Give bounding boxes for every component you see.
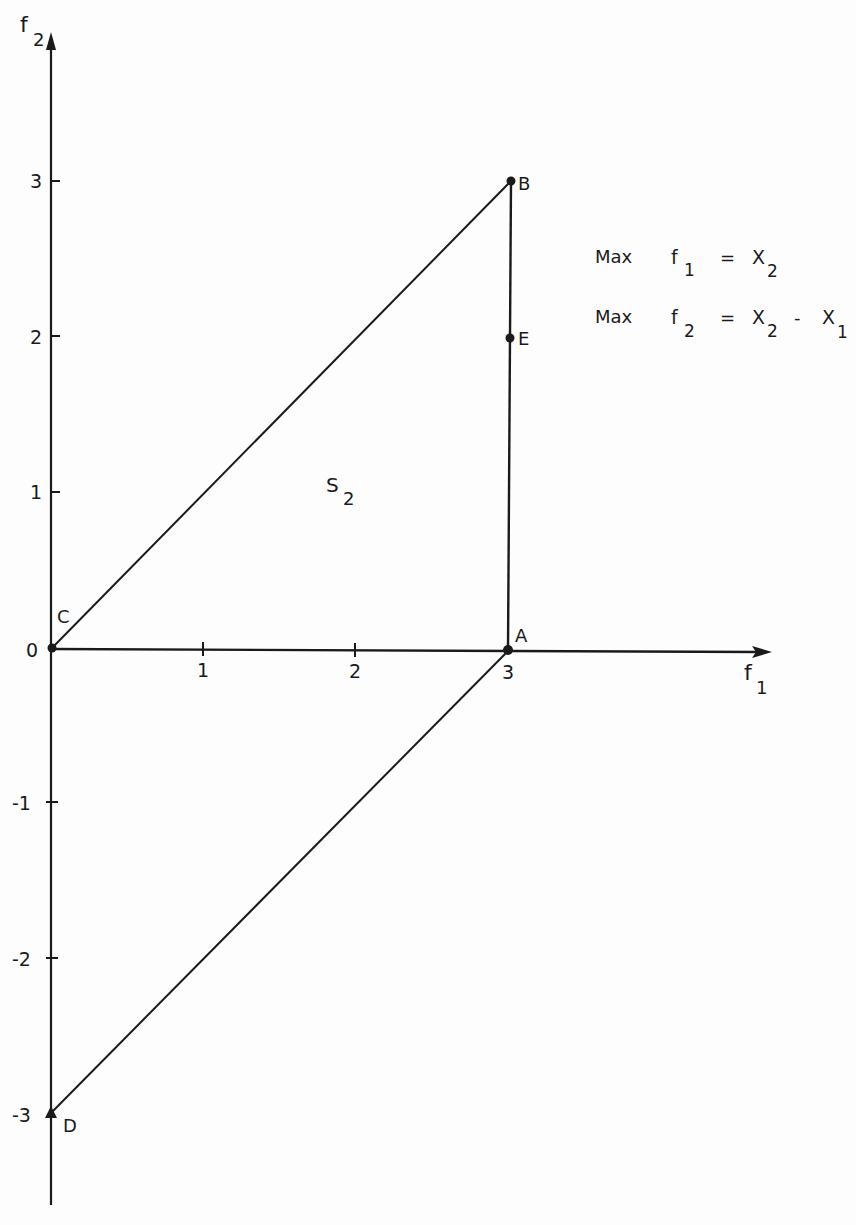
objective-2-lhs: f (671, 306, 679, 328)
segment-b-a (508, 181, 511, 650)
objective-1-keyword: Max (595, 246, 633, 267)
y-axis-arrow-icon (46, 32, 56, 50)
objective-1-equals: = (720, 247, 735, 268)
objective-2-rhs2: X (822, 306, 835, 328)
point-a-marker (503, 645, 513, 655)
x-tick-label-3: 3 (502, 661, 514, 683)
y-axis-label: f (20, 12, 29, 37)
point-d-label: D (63, 1115, 77, 1136)
objective-2-keyword: Max (595, 306, 633, 327)
segment-a-d (52, 651, 508, 1112)
y-axis-label-sub: 2 (33, 29, 44, 50)
point-b-label: B (518, 173, 530, 194)
point-c-label: C (57, 606, 70, 627)
y-tick-label-neg3: -3 (12, 1104, 31, 1126)
objective-2-rhs2-sub: 1 (837, 322, 848, 342)
objective-2-equals: = (720, 307, 735, 328)
x-tick-label-1: 1 (197, 659, 209, 681)
objective-2-lhs-sub: 2 (684, 321, 695, 341)
point-b-marker (507, 177, 516, 186)
objective-space-diagram: f 2 f 1 0 1 2 3 3 2 1 -1 -2 -3 B E A C D… (0, 0, 856, 1225)
objective-1-rhs1-sub: 2 (767, 261, 778, 281)
x-axis (51, 649, 760, 652)
objective-2-rhs1: X (752, 306, 765, 328)
region-label: S (326, 473, 339, 497)
y-tick-label-neg1: -1 (12, 792, 31, 814)
objective-2-minus: - (794, 307, 801, 328)
region-label-sub: 2 (343, 488, 354, 509)
objective-1-lhs-sub: 1 (684, 260, 695, 280)
y-tick-label-3: 3 (30, 170, 42, 192)
objective-2-rhs1-sub: 2 (767, 321, 778, 341)
x-axis-label: f (744, 660, 753, 685)
segment-c-b (52, 181, 511, 648)
origin-label: 0 (26, 639, 38, 661)
y-tick-label-2: 2 (30, 326, 42, 348)
objective-1: Max f 1 = X 2 (595, 246, 778, 281)
y-tick-label-1: 1 (30, 481, 42, 503)
objective-2: Max f 2 = X 2 - X 1 (595, 306, 848, 342)
point-a-label: A (515, 625, 528, 646)
objective-1-rhs1: X (752, 246, 765, 268)
point-e-label: E (518, 328, 529, 349)
x-tick-label-2: 2 (349, 660, 361, 682)
point-c-marker (48, 644, 57, 653)
point-e-marker (506, 334, 515, 343)
y-tick-label-neg2: -2 (12, 948, 31, 970)
objective-1-lhs: f (671, 246, 679, 268)
x-axis-label-sub: 1 (756, 677, 767, 698)
